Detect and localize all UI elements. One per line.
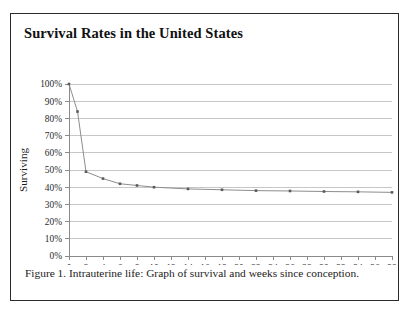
x-axis-ticks: 02468101214161820222426283032343638 [67, 256, 397, 265]
data-point-marker [391, 191, 394, 194]
y-tick-label: 100% [40, 79, 62, 89]
data-point-marker [323, 190, 326, 193]
y-tick-label: 60% [45, 148, 62, 158]
grid-lines [69, 84, 392, 239]
chart-svg: 0%10%20%30%40%50%60%70%80%90%100% 024681… [11, 50, 397, 265]
x-tick-label: 10 [149, 263, 159, 265]
y-tick-label: 50% [45, 165, 62, 175]
x-tick-label: 2 [84, 263, 89, 265]
data-point-marker [76, 110, 79, 113]
y-tick-label: 30% [45, 200, 62, 210]
y-tick-label: 40% [45, 183, 62, 193]
y-tick-label: 70% [45, 131, 62, 141]
x-tick-label: 18 [217, 263, 227, 265]
x-tick-label: 12 [166, 263, 176, 265]
x-tick-label: 4 [101, 263, 106, 265]
x-tick-label: 34 [353, 263, 363, 265]
y-tick-label: 90% [45, 97, 62, 107]
x-tick-label: 30 [319, 263, 329, 265]
y-tick-label: 0% [50, 251, 63, 261]
data-point-marker [187, 188, 190, 191]
y-tick-label: 10% [45, 234, 62, 244]
data-point-marker [85, 170, 88, 173]
survival-series-line [69, 84, 392, 192]
data-point-marker [221, 188, 224, 191]
y-axis-ticks: 0%10%20%30%40%50%60%70%80%90%100% [40, 79, 69, 261]
x-tick-label: 0 [67, 263, 72, 265]
data-point-marker [153, 186, 156, 189]
data-point-marker [68, 83, 71, 86]
x-tick-label: 14 [183, 263, 193, 265]
x-tick-label: 6 [118, 263, 123, 265]
x-tick-label: 26 [285, 263, 295, 265]
data-point-marker [136, 184, 139, 187]
x-tick-label: 24 [268, 263, 278, 265]
y-axis-title: Surviving [17, 148, 29, 193]
y-tick-label: 80% [45, 114, 62, 124]
data-point-marker [102, 177, 105, 180]
x-tick-label: 22 [251, 263, 261, 265]
x-tick-label: 8 [135, 263, 140, 265]
survival-chart: 0%10%20%30%40%50%60%70%80%90%100% 024681… [11, 50, 397, 265]
figure-title: Survival Rates in the United States [24, 25, 243, 42]
figure-frame: Survival Rates in the United States 0%10… [10, 13, 399, 301]
data-point-marker [119, 182, 122, 185]
x-tick-label: 32 [336, 263, 346, 265]
x-tick-label: 16 [200, 263, 210, 265]
survival-series-markers [68, 83, 394, 194]
data-point-marker [289, 190, 292, 193]
figure-caption: Figure 1. Intrauterine life: Graph of su… [25, 267, 359, 279]
data-point-marker [255, 189, 258, 192]
x-tick-label: 38 [387, 263, 397, 265]
y-tick-label: 20% [45, 217, 62, 227]
data-point-marker [357, 191, 360, 194]
x-tick-label: 20 [234, 263, 244, 265]
x-tick-label: 36 [370, 263, 380, 265]
x-tick-label: 28 [302, 263, 312, 265]
